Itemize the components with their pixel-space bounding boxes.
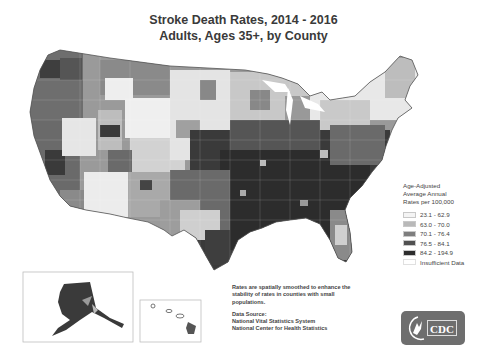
- hawaii-inset: [140, 300, 201, 342]
- legend-heading-line: Rates per 100,000: [403, 198, 487, 206]
- legend-item: 23.1 - 62.9: [403, 210, 487, 220]
- legend-label: Insufficient Data: [420, 259, 464, 266]
- data-source-line: National Center for Health Statistics: [232, 325, 357, 332]
- legend-label: 23.1 - 62.9: [420, 211, 450, 218]
- cdc-wordmark: CDC: [427, 320, 457, 336]
- map-legend: Age-Adjusted Average Annual Rates per 10…: [403, 182, 487, 267]
- legend-swatch: [403, 221, 416, 227]
- legend-heading-line: Age-Adjusted: [403, 182, 487, 190]
- legend-swatch: [403, 231, 416, 237]
- legend-label: 70.1 - 76.4: [420, 230, 450, 237]
- legend-swatch: [403, 259, 416, 265]
- legend-item: Insufficient Data: [403, 258, 487, 268]
- legend-swatch: [403, 212, 416, 218]
- legend-item: 70.1 - 76.4: [403, 229, 487, 239]
- data-source-heading: Data Source:: [232, 311, 357, 318]
- legend-swatch: [403, 240, 416, 246]
- data-source-line: National Vital Statistics System: [232, 318, 357, 325]
- legend-item: 63.0 - 70.0: [403, 220, 487, 230]
- legend-item: 76.5 - 84.1: [403, 239, 487, 249]
- hhs-eagle-icon: [404, 313, 428, 343]
- legend-label: 84.2 - 194.9: [420, 249, 453, 256]
- legend-heading-line: Average Annual: [403, 190, 487, 198]
- legend-label: 76.5 - 84.1: [420, 240, 450, 247]
- legend-swatch: [403, 250, 416, 256]
- map-notes: Rates are spatially smoothed to enhance …: [232, 284, 357, 333]
- legend-item: 84.2 - 194.9: [403, 248, 487, 258]
- smoothing-note: Rates are spatially smoothed to enhance …: [232, 284, 357, 306]
- legend-label: 63.0 - 70.0: [420, 221, 450, 228]
- cdc-logo: CDC: [401, 311, 465, 345]
